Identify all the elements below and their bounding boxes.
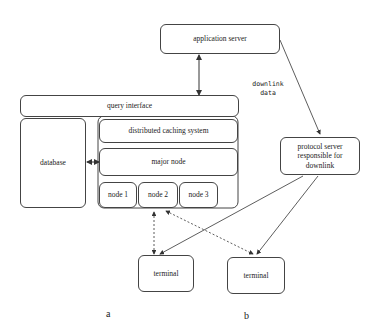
sublabel-b: b	[244, 310, 249, 321]
node1-label: node 1	[108, 190, 128, 199]
node3-label: node 3	[188, 190, 208, 199]
major-node-label: major node	[152, 157, 186, 166]
application-server-box: application server	[160, 24, 280, 54]
terminal-b-box: terminal	[227, 257, 285, 294]
sublabel-a: a	[106, 308, 110, 319]
terminal-b-label: terminal	[244, 271, 269, 280]
downlink-data-annotation: downlink data	[248, 80, 288, 98]
database-label: database	[40, 158, 66, 167]
terminal-a-box: terminal	[138, 255, 194, 292]
distributed-caching-box: distributed caching system	[99, 119, 238, 143]
distributed-caching-label: distributed caching system	[129, 126, 209, 135]
node2-label: node 2	[148, 190, 168, 199]
major-node-box: major node	[99, 148, 238, 176]
diagram-canvas: application server downlink data query i…	[0, 0, 378, 333]
protocol-server-box: protocol server responsible for downlink	[280, 137, 360, 175]
query-interface-label: query interface	[107, 101, 152, 110]
protocol-server-label: protocol server responsible for downlink	[287, 142, 353, 170]
terminal-a-label: terminal	[154, 269, 179, 278]
node3-box: node 3	[179, 182, 218, 208]
node1-box: node 1	[99, 182, 137, 208]
application-server-label: application server	[193, 34, 247, 43]
query-interface-box: query interface	[20, 95, 239, 117]
database-box: database	[20, 118, 86, 208]
node2-box: node 2	[138, 182, 178, 208]
